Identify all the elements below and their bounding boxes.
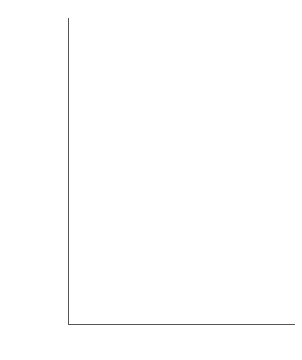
y-axis-line	[68, 18, 69, 325]
dot-plot-figure	[0, 0, 302, 360]
x-axis-line	[68, 324, 295, 325]
